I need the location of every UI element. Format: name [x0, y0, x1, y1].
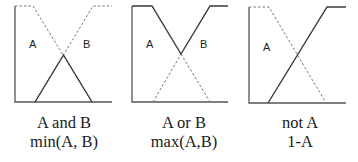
panel-not: A	[249, 7, 346, 103]
caption-line1: not A	[240, 113, 358, 132]
caption-or: A or B max(A,B)	[124, 113, 244, 151]
axes	[132, 6, 228, 102]
set-b-dashed	[35, 6, 112, 102]
set-a-dashed	[15, 6, 92, 102]
set-label-a: A	[29, 38, 37, 50]
caption-not: not A 1-A	[240, 113, 358, 151]
caption-line2: max(A,B)	[124, 132, 244, 151]
set-b-dashed	[153, 54, 181, 102]
set-label-a: A	[263, 41, 271, 53]
caption-line1: A or B	[124, 113, 244, 132]
set-label-b: B	[83, 38, 90, 50]
min-result	[35, 55, 92, 102]
set-a-dashed	[181, 54, 210, 102]
not-a-result	[268, 7, 346, 103]
caption-line1: A and B	[4, 113, 124, 132]
caption-line2: min(A, B)	[4, 132, 124, 151]
set-label-b: B	[200, 38, 207, 50]
caption-and: A and B min(A, B)	[4, 113, 124, 151]
set-label-a: A	[146, 38, 154, 50]
caption-line2: 1-A	[240, 132, 358, 151]
panel-and: A B	[15, 6, 112, 102]
panel-or: A B	[132, 6, 228, 102]
set-a-dashed	[249, 7, 326, 103]
